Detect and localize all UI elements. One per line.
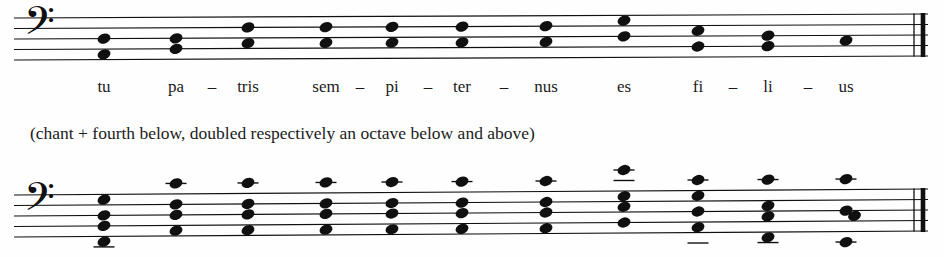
lyric-syllable: pa (168, 76, 184, 98)
upper-staff-notation: 𝄢 (0, 0, 944, 70)
chord[interactable] (760, 29, 776, 53)
notehead (384, 207, 400, 221)
notehead (454, 175, 470, 189)
chord[interactable] (454, 20, 470, 49)
lyric-syllable: sem (312, 76, 339, 98)
chord[interactable] (616, 14, 632, 43)
notehead (240, 21, 256, 35)
staff-line (14, 14, 928, 18)
upper-system: 𝄢 (0, 0, 944, 70)
chord[interactable] (238, 176, 259, 237)
bass-clef-icon: 𝄢 (24, 174, 55, 229)
staff-line (14, 46, 928, 50)
lyric-syllable: nus (534, 76, 558, 98)
lyric-syllable: es (617, 76, 631, 98)
notehead (384, 20, 400, 34)
notehead (384, 196, 400, 210)
lyric-hyphen: – (208, 76, 217, 98)
staff-line (14, 56, 928, 60)
notehead (760, 173, 776, 187)
notehead (240, 176, 256, 190)
chord[interactable] (166, 177, 187, 238)
chord[interactable] (168, 31, 184, 55)
chord[interactable] (94, 193, 115, 249)
chord[interactable] (384, 20, 400, 49)
lyric-hyphen: – (804, 76, 813, 98)
bass-clef-icon: 𝄢 (24, 0, 55, 53)
notehead (690, 40, 706, 54)
lyric-syllable: tu (97, 76, 110, 98)
notehead (838, 235, 854, 249)
notehead (318, 197, 334, 211)
lyric-hyphen: – (729, 76, 738, 98)
chord[interactable] (614, 163, 635, 229)
staff-line (14, 35, 928, 39)
lower-staff-notation: 𝄢 (0, 155, 944, 257)
notehead (616, 216, 632, 230)
notehead (240, 208, 256, 222)
notehead (538, 195, 554, 209)
caption-text: (chant + fourth below, doubled respectiv… (30, 121, 535, 145)
lyric-syllable: us (838, 76, 853, 98)
notehead (760, 29, 776, 43)
chord[interactable] (690, 24, 706, 53)
notehead (96, 209, 112, 223)
notehead (690, 205, 706, 219)
notehead (454, 20, 470, 34)
notehead (454, 196, 470, 210)
staff-line (14, 210, 928, 216)
notehead (616, 29, 632, 43)
lower-system: 𝄢 (0, 155, 944, 257)
chord[interactable] (452, 175, 473, 236)
chord[interactable] (316, 176, 337, 237)
lyric-syllable: fi (693, 76, 703, 98)
lyric-hyphen: – (424, 76, 433, 98)
chord[interactable] (538, 19, 554, 48)
notehead (240, 197, 256, 211)
notehead (96, 219, 112, 233)
lyric-syllable: tris (237, 76, 259, 98)
notehead (616, 163, 632, 177)
notehead (168, 42, 184, 56)
notehead (168, 208, 184, 222)
notehead (538, 206, 554, 220)
lyric-hyphen: – (500, 76, 509, 98)
notehead (318, 20, 334, 34)
notehead (168, 198, 184, 212)
lyric-syllable: ter (453, 76, 471, 98)
staff-line (14, 231, 928, 237)
chord[interactable] (758, 173, 779, 244)
score-page: 𝄢 tupatrissempiternusesfilius–––––– (cha… (0, 0, 944, 257)
notehead (168, 31, 184, 45)
notehead (96, 32, 112, 46)
notehead (690, 173, 706, 187)
lyric-syllable: li (763, 76, 772, 98)
staff-line (14, 200, 928, 206)
chord[interactable] (536, 174, 557, 235)
chord[interactable] (96, 32, 112, 61)
lyric-hyphen: – (356, 76, 365, 98)
notehead (168, 177, 184, 191)
staff-line (14, 189, 928, 195)
chord[interactable] (382, 175, 403, 236)
notehead (760, 39, 776, 53)
notehead (838, 172, 854, 186)
staff-line (14, 25, 928, 29)
chord[interactable] (318, 20, 334, 49)
staff-line (14, 221, 928, 227)
chord[interactable] (240, 21, 256, 50)
notehead (318, 207, 334, 221)
notehead (384, 175, 400, 189)
notehead (454, 206, 470, 220)
lyrics-row: tupatrissempiternusesfilius–––––– (0, 76, 944, 102)
notehead (318, 176, 334, 190)
lyric-syllable: pi (385, 76, 398, 98)
notehead (538, 174, 554, 188)
notehead (538, 19, 554, 33)
